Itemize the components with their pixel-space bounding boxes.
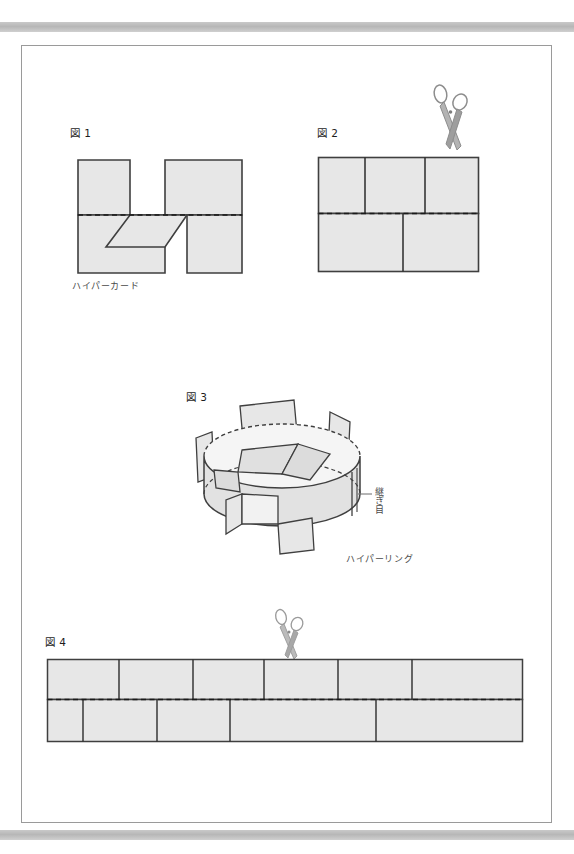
- figure-1-right-upper-arm: [165, 160, 242, 215]
- figure-4-label: 図 4: [45, 634, 66, 649]
- figure-2-scissors: [428, 84, 476, 158]
- figure-2-drawing: [317, 156, 481, 276]
- figure-3-band-opening: [242, 494, 278, 524]
- figure-2-top-half: [319, 158, 479, 214]
- scissors-handle-right: [289, 615, 305, 632]
- figure-1-drawing: [70, 155, 255, 280]
- scissors-handle-left: [433, 84, 449, 104]
- figure-4-bottom-half: [48, 700, 523, 742]
- figure-3-tab-front-bottom: [278, 518, 314, 554]
- figure-3-part-caption: ハイパーリング: [346, 552, 413, 565]
- scissors-handle-right: [450, 92, 470, 113]
- figure-3-tab-inner-left: [214, 470, 240, 492]
- scissors-pivot: [449, 110, 453, 114]
- figure-2-label: 図 2: [317, 125, 338, 140]
- figure-1-lower-right-block: [187, 215, 242, 273]
- scan-edge-bar-bottom: [0, 830, 574, 840]
- scan-edge-bar-top: [0, 22, 574, 32]
- figure-2-bottom-half: [319, 214, 479, 272]
- scissors-handle-left: [274, 608, 288, 625]
- figure-3-seam-annotation: 継ぎ目: [374, 487, 383, 514]
- figure-3-drawing: [182, 398, 382, 558]
- figure-1-label: 図 1: [70, 125, 91, 140]
- figure-1-left-upper-arm: [78, 160, 130, 215]
- scanned-page: 図 1 ハイパーカード 図 2: [0, 0, 574, 854]
- figure-4-drawing: [46, 658, 526, 748]
- figure-1-part-caption: ハイパーカード: [72, 279, 139, 292]
- scissors-pivot: [288, 631, 291, 634]
- figure-3-tab-front-left: [226, 494, 242, 534]
